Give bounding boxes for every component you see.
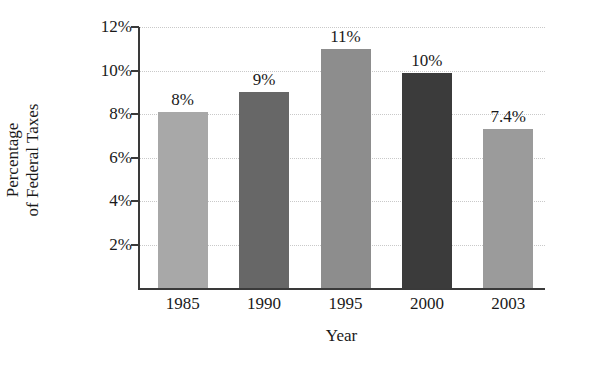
y-tick-label: 10% [80, 62, 132, 79]
bar [158, 112, 208, 288]
bars: 8%9%11%10%7.4% [138, 27, 545, 288]
x-axis-tick-labels: 19851990199520002003 [138, 294, 545, 318]
x-axis-title: Year [138, 326, 545, 346]
bar-value-label: 7.4% [491, 108, 526, 125]
bar [321, 49, 371, 288]
plot-area: 8%9%11%10%7.4% [138, 27, 545, 288]
y-axis-title-line-1: Percentage [3, 70, 23, 250]
bar-chart: Percentage of Federal Taxes 2%4%6%8%10%1… [0, 0, 589, 367]
bar [402, 73, 452, 288]
y-tick-label: 2% [80, 236, 132, 253]
y-tick-label: 6% [80, 149, 132, 166]
y-tick-label: 12% [80, 18, 132, 35]
bar [483, 129, 533, 288]
x-tick-label: 1990 [227, 294, 301, 314]
bar-group: 9% [239, 27, 289, 288]
bar-group: 10% [402, 27, 452, 288]
y-axis-title: Percentage of Federal Taxes [3, 70, 53, 250]
y-tick-label: 4% [80, 192, 132, 209]
y-tick-label: 8% [80, 105, 132, 122]
bar-value-label: 8% [171, 91, 194, 108]
x-tick-label: 1995 [309, 294, 383, 314]
bar-value-label: 9% [253, 71, 276, 88]
x-tick-label: 2000 [390, 294, 464, 314]
x-tick-label: 1985 [146, 294, 220, 314]
x-axis-line [138, 288, 545, 290]
bar-group: 11% [321, 27, 371, 288]
bar-group: 7.4% [483, 27, 533, 288]
y-axis-title-line-2: of Federal Taxes [23, 70, 43, 250]
bar-group: 8% [158, 27, 208, 288]
bar-value-label: 10% [411, 52, 442, 69]
bar [239, 92, 289, 288]
x-tick-label: 2003 [471, 294, 545, 314]
bar-value-label: 11% [330, 28, 361, 45]
y-axis-tick-labels: 2%4%6%8%10%12% [80, 0, 132, 367]
